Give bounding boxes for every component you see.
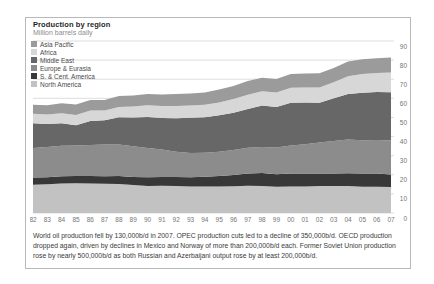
chart-caption: World oil production fell by 130,000b/d … xyxy=(33,231,409,261)
x-axis-label-95: 95 xyxy=(216,216,224,223)
y-axis-label-80: 80 xyxy=(400,62,408,69)
legend-label: Asia Pacific xyxy=(40,41,74,48)
x-axis-label-07: 07 xyxy=(387,216,395,223)
x-axis-label-00: 00 xyxy=(287,216,295,223)
legend-swatch-asia-pacific xyxy=(31,41,37,47)
x-axis-label-04: 04 xyxy=(344,216,352,223)
x-axis-label-93: 93 xyxy=(187,216,195,223)
x-axis-label-05: 05 xyxy=(359,216,367,223)
legend-label: Africa xyxy=(40,49,57,56)
legend-label: North America xyxy=(40,81,81,88)
y-axis-label-20: 20 xyxy=(400,176,408,183)
legend-item-middle-east: Middle East xyxy=(31,56,95,64)
x-axis-label-01: 01 xyxy=(301,216,309,223)
legend-swatch-north-america xyxy=(31,81,37,87)
y-axis-label-30: 30 xyxy=(400,157,408,164)
x-axis-label-84: 84 xyxy=(58,216,66,223)
y-axis-label-60: 60 xyxy=(400,100,408,107)
x-axis-label-92: 92 xyxy=(173,216,181,223)
chart-legend: Asia Pacific Africa Middle East Europe &… xyxy=(31,40,95,88)
legend-swatch-s-cent-america xyxy=(31,73,37,79)
area-north-america xyxy=(33,183,391,213)
x-axis-label-91: 91 xyxy=(158,216,166,223)
legend-label: Middle East xyxy=(40,57,74,64)
x-axis-label-88: 88 xyxy=(115,216,123,223)
y-axis-label-50: 50 xyxy=(400,119,408,126)
legend-item-europe-eurasia: Europe & Eurasia xyxy=(31,64,95,72)
y-axis-label-10: 10 xyxy=(400,195,408,202)
x-axis-label-87: 87 xyxy=(101,216,109,223)
x-axis-label-82: 82 xyxy=(30,216,37,223)
x-axis-label-85: 85 xyxy=(72,216,80,223)
x-axis-label-83: 83 xyxy=(44,216,52,223)
x-axis-label-86: 86 xyxy=(87,216,95,223)
legend-item-asia-pacific: Asia Pacific xyxy=(31,40,95,48)
y-axis-label-90: 90 xyxy=(400,43,408,50)
x-axis-label-98: 98 xyxy=(258,216,266,223)
x-axis-label-99: 99 xyxy=(273,216,281,223)
y-axis-label-40: 40 xyxy=(400,138,408,145)
legend-item-north-america: North America xyxy=(31,80,95,88)
legend-label: Europe & Eurasia xyxy=(40,65,91,72)
x-axis-label-03: 03 xyxy=(330,216,338,223)
x-axis-label-97: 97 xyxy=(244,216,252,223)
legend-item-s-cent-america: S. & Cent. America xyxy=(31,72,95,80)
legend-swatch-europe-eurasia xyxy=(31,65,37,71)
x-axis-label-96: 96 xyxy=(230,216,238,223)
x-axis-label-06: 06 xyxy=(373,216,381,223)
x-axis-label-89: 89 xyxy=(130,216,138,223)
screenshot-root: Production by region Million barrels dai… xyxy=(0,0,434,284)
legend-label: S. & Cent. America xyxy=(40,73,95,80)
legend-swatch-middle-east xyxy=(31,57,37,63)
x-axis-label-90: 90 xyxy=(144,216,152,223)
x-axis-label-94: 94 xyxy=(201,216,209,223)
x-axis-label-02: 02 xyxy=(316,216,324,223)
chart-subtitle-units: Million barrels daily xyxy=(33,29,93,36)
y-axis-label-0: 0 xyxy=(403,215,407,222)
y-axis-label-70: 70 xyxy=(400,81,408,88)
legend-swatch-africa xyxy=(31,49,37,55)
chart-title: Production by region xyxy=(33,20,110,29)
legend-item-africa: Africa xyxy=(31,48,95,56)
